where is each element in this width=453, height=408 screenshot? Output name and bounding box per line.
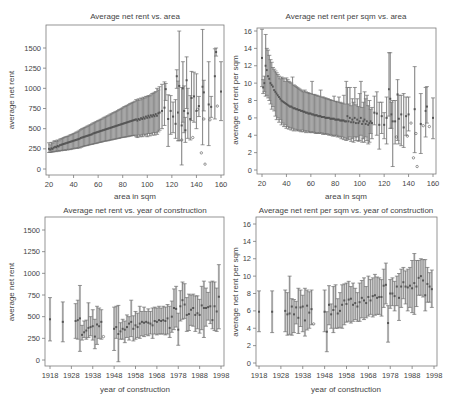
y-tick-label: 4: [248, 131, 252, 140]
x-axis-label: area in sqm: [325, 192, 367, 201]
x-tick-label: 100: [141, 180, 154, 189]
panel-title: Average net rent per sqm vs. year of con…: [259, 206, 434, 215]
y-tick-label: 10: [244, 79, 252, 88]
y-tick-label: 1500: [23, 226, 40, 235]
y-axis-label: average net rent: [7, 70, 16, 129]
panel-rent-per-sqm-vs-area: Average net rent per sqm vs. area area i…: [231, 12, 439, 201]
outlier-point: [216, 105, 218, 107]
y-tick-label: 500: [27, 312, 40, 321]
x-tick-label: 1978: [382, 371, 399, 380]
outlier-point: [192, 136, 194, 138]
x-tick-label: 160: [215, 180, 228, 189]
y-tick-label: 8: [247, 289, 251, 298]
y-tick-label: 2: [247, 341, 251, 350]
x-tick-label: 1938: [84, 371, 101, 380]
y-tick-label: 1500: [24, 44, 41, 53]
plot-area: 1918192819381948195819681978198819980246…: [243, 217, 443, 380]
outlier-point: [428, 125, 430, 127]
error-bar-series: [257, 254, 434, 352]
error-bar-series: [48, 265, 221, 362]
y-tick-label: 750: [28, 104, 41, 113]
x-tick-label: 40: [282, 179, 290, 188]
x-tick-label: 120: [166, 180, 179, 189]
x-tick-label: 1958: [338, 371, 355, 380]
chart-canvas: Average net rent vs. area area in sqm av…: [0, 0, 453, 408]
x-tick-label: 1988: [191, 371, 208, 380]
y-tick-label: 1000: [23, 269, 40, 278]
y-tick-label: 1250: [24, 64, 41, 73]
x-tick-label: 80: [331, 179, 339, 188]
y-tick-label: 0: [248, 166, 252, 175]
x-tick-label: 1918: [251, 371, 268, 380]
outlier-point: [422, 124, 424, 126]
x-tick-label: 60: [307, 179, 315, 188]
y-tick-label: 10: [243, 272, 251, 281]
x-tick-label: 60: [94, 180, 102, 189]
x-tick-label: 1928: [273, 371, 290, 380]
x-tick-label: 1998: [426, 371, 443, 380]
y-axis-label: average net rent: [7, 262, 16, 321]
error-bar-series: [260, 29, 435, 167]
outlier-point: [200, 152, 202, 154]
y-tick-label: 16: [244, 27, 252, 36]
y-tick-label: 8: [248, 96, 252, 105]
y-tick-label: 16: [243, 220, 251, 229]
y-tick-label: 0: [36, 356, 40, 365]
y-tick-label: 750: [27, 291, 40, 300]
x-tick-label: 100: [353, 179, 366, 188]
x-tick-label: 140: [402, 179, 415, 188]
y-axis-label: average net rent per sqm: [231, 247, 240, 337]
y-tick-label: 12: [243, 254, 251, 263]
x-tick-label: 1938: [294, 371, 311, 380]
panel-title: Average net rent vs. year of constructio…: [63, 206, 206, 215]
y-tick-label: 14: [244, 44, 252, 53]
y-tick-label: 0: [247, 359, 251, 368]
outlier-point: [416, 165, 418, 167]
x-tick-label: 40: [69, 180, 77, 189]
x-tick-label: 140: [190, 180, 203, 189]
error-bar-series: [47, 29, 223, 165]
figure: Average net rent vs. area area in sqm av…: [0, 0, 453, 408]
y-tick-label: 6: [247, 306, 251, 315]
y-tick-label: 14: [243, 237, 251, 246]
y-tick-label: 500: [28, 124, 41, 133]
outlier-point: [102, 335, 104, 337]
y-tick-label: 6: [248, 113, 252, 122]
panel-rent-vs-year: Average net rent vs. year of constructio…: [7, 206, 229, 394]
x-tick-label: 1918: [42, 371, 59, 380]
y-tick-label: 4: [247, 324, 251, 333]
x-tick-label: 20: [45, 180, 53, 189]
panel-title: Average net rent vs. area: [90, 12, 180, 21]
x-tick-label: 1928: [63, 371, 80, 380]
y-tick-label: 0: [37, 165, 41, 174]
outlier-point: [204, 163, 206, 165]
x-tick-label: 1968: [360, 371, 377, 380]
outlier-point: [412, 157, 414, 159]
x-tick-label: 120: [378, 179, 391, 188]
panel-rent-per-sqm-vs-year: Average net rent per sqm vs. year of con…: [231, 206, 442, 394]
y-tick-label: 1000: [24, 84, 41, 93]
y-tick-label: 2: [248, 148, 252, 157]
plot-frame: [45, 217, 224, 366]
y-axis-label: average net rent per sqm: [231, 55, 240, 145]
plot-area: 2040608010012014016002505007501000125015…: [24, 25, 227, 189]
x-tick-label: 80: [119, 180, 127, 189]
x-tick-label: 1968: [149, 371, 166, 380]
panel-title: Average net rent per sqm vs. area: [286, 12, 407, 21]
x-axis-label: year of construction: [311, 385, 381, 394]
plot-area: 204060801001201401600246810121416: [244, 27, 440, 188]
outlier-point: [410, 122, 412, 124]
plot-frame: [46, 25, 224, 175]
plot-area: 1918192819381948195819681978198819980250…: [23, 217, 229, 380]
x-tick-label: 1948: [106, 371, 123, 380]
x-axis-label: year of construction: [100, 385, 170, 394]
y-tick-label: 12: [244, 61, 252, 70]
x-tick-label: 1948: [316, 371, 333, 380]
x-tick-label: 1988: [404, 371, 421, 380]
x-tick-label: 1978: [170, 371, 187, 380]
outlier-point: [312, 323, 314, 325]
x-tick-label: 160: [427, 179, 440, 188]
x-tick-label: 1958: [127, 371, 144, 380]
x-tick-label: 20: [258, 179, 266, 188]
panel-rent-vs-area: Average net rent vs. area area in sqm av…: [7, 12, 227, 201]
